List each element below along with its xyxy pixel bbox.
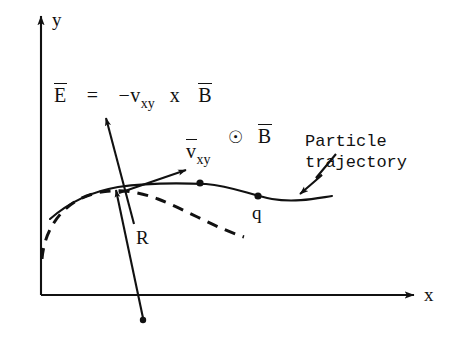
circle-dot-icon: ☉	[228, 127, 244, 147]
v-symbol: v	[130, 84, 141, 106]
e-vector-symbol: E	[54, 83, 67, 105]
velocity-v-symbol: v	[186, 139, 197, 161]
trajectory-caption-line-2: trajectory	[305, 152, 407, 173]
trajectory-point-dot	[196, 179, 203, 186]
equals-sign: =	[87, 84, 99, 106]
y-axis-label: y	[52, 10, 62, 29]
trajectory-caption: Particle trajectory	[305, 131, 407, 174]
centre-of-curvature-dot	[140, 317, 146, 323]
cross-product-sign: x	[170, 84, 181, 106]
trajectory-caption-line-1: Particle	[305, 131, 407, 152]
charge-q-dot	[254, 192, 261, 199]
radius-label: R	[136, 228, 149, 247]
field-equation: E = −vxy x B	[54, 83, 212, 111]
minus-sign: −	[119, 84, 131, 106]
velocity-subscript-xy: xy	[197, 153, 211, 167]
v-subscript-xy: xy	[141, 97, 155, 111]
x-axis-label: x	[424, 285, 434, 304]
charge-label: q	[252, 203, 262, 222]
velocity-label: vxy	[186, 139, 211, 167]
velocity-vector-arrow	[119, 170, 186, 193]
b-field-symbol: B	[258, 124, 272, 146]
dashed-circle-path	[42, 191, 244, 259]
particle-trajectory-diagram: y x E = −vxy x B vxy ☉ B R q Particle tr…	[0, 0, 472, 338]
b-field-out-of-page: ☉ B	[228, 124, 272, 146]
b-vector-symbol: B	[198, 83, 212, 105]
